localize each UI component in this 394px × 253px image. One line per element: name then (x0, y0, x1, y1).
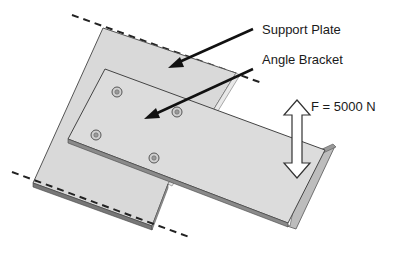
force-label: F = 5000 N (311, 100, 376, 113)
support-plate-label: Support Plate (262, 23, 341, 36)
bolt-hole-icon (91, 130, 101, 140)
bolt-hole-icon (112, 87, 122, 97)
angle-bracket-label: Angle Bracket (262, 53, 343, 66)
bracket-diagram (0, 0, 394, 253)
bolt-hole-icon (149, 153, 159, 163)
bolt-hole-icon (172, 107, 182, 117)
support-plate-leader-arrow (168, 29, 253, 68)
